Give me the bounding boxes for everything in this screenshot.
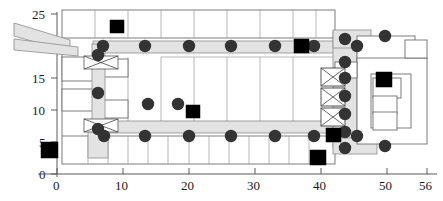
round-column <box>351 130 363 142</box>
x-tick-label-0: 0 <box>53 178 60 193</box>
square-column <box>110 20 124 33</box>
x-tick-label-56: 56 <box>419 178 433 193</box>
east-room-6 <box>373 112 397 130</box>
round-column <box>183 40 195 52</box>
round-column <box>379 140 391 152</box>
floor-plan-figure: 25 20 15 10 5 0 0 10 20 30 40 50 56 <box>0 0 443 201</box>
west-room-2 <box>62 89 95 111</box>
round-column <box>339 142 351 154</box>
square-column <box>294 39 309 53</box>
round-column <box>339 72 351 84</box>
round-column <box>351 40 363 52</box>
round-column <box>225 40 237 52</box>
east-room-7 <box>405 40 427 58</box>
x-tick-label-20: 20 <box>181 178 194 193</box>
round-column <box>339 33 351 45</box>
round-column <box>339 108 351 120</box>
x-tick-label-10: 10 <box>115 178 128 193</box>
round-column <box>269 130 281 142</box>
round-column <box>308 130 320 142</box>
round-column <box>142 98 154 110</box>
square-column <box>41 142 58 158</box>
round-column <box>92 49 104 61</box>
square-column <box>326 128 341 142</box>
round-column <box>379 30 391 42</box>
x-tick-label-50: 50 <box>379 178 392 193</box>
round-column <box>225 130 237 142</box>
x-axis: 0 10 20 30 40 50 56 <box>38 168 437 193</box>
floor-plan-canvas: 25 20 15 10 5 0 0 10 20 30 40 50 56 <box>0 0 443 201</box>
x-tick-label-30: 30 <box>247 178 260 193</box>
round-column <box>98 130 110 142</box>
round-column <box>183 130 195 142</box>
round-column <box>92 87 104 99</box>
round-column <box>172 98 184 110</box>
south-corridor <box>93 121 334 133</box>
square-column <box>376 72 392 87</box>
round-column <box>139 40 151 52</box>
round-column <box>339 56 351 68</box>
square-column <box>310 150 326 165</box>
y-tick-label-25: 25 <box>32 7 45 22</box>
round-column <box>339 90 351 102</box>
y-tick-label-15: 15 <box>32 71 45 86</box>
round-column <box>308 40 320 52</box>
round-column <box>139 130 151 142</box>
square-column <box>186 105 200 118</box>
round-column <box>269 40 281 52</box>
y-tick-label-10: 10 <box>32 103 45 118</box>
east-room-5 <box>373 96 397 114</box>
x-tick-label-40: 40 <box>313 178 326 193</box>
